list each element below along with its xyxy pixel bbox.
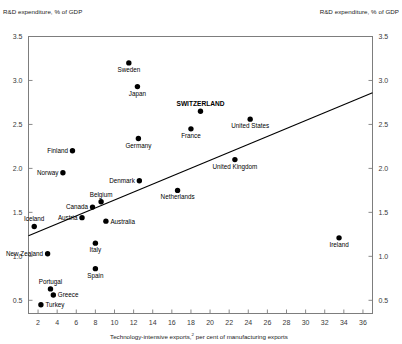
data-point: Greece [51,291,79,298]
point-label: Norway [37,169,59,177]
point-marker [90,204,95,209]
x-tick-label: 34 [340,319,348,326]
x-tick-label: 24 [244,319,252,326]
point-marker [93,240,98,245]
y-tick-label-right: 1.5 [379,209,389,216]
data-point: Netherlands [161,188,195,201]
regression-line [29,93,373,236]
point-marker [98,199,103,204]
point-marker [126,60,131,65]
data-point: Finland [47,147,75,154]
y-tick-label-right: 0.5 [379,297,389,304]
point-label: Portugal [39,278,62,286]
x-axis-title-text-cont: per cent of manufacturing exports [194,333,288,340]
point-label: Australia [110,218,135,225]
data-point: Iceland [24,215,45,229]
x-tick-label: 30 [302,319,310,326]
y-tick-label-left: 2.0 [13,165,23,172]
y-tick-label-right: 3.0 [379,77,389,84]
point-label: Turkey [45,301,65,309]
data-point: Denmark [109,177,142,184]
data-point: Austria [58,214,85,221]
y-tick-label-left: 1.5 [13,209,23,216]
scatter-plot: 0.50.51.01.01.51.52.02.02.52.53.03.03.53… [0,0,402,344]
point-label: Denmark [109,177,135,184]
data-point: Sweden [117,60,140,73]
x-tick-label: 4 [55,319,59,326]
x-tick-label: 20 [206,319,214,326]
data-point: Australia [103,218,135,225]
point-label: Greece [58,291,79,298]
data-point: Japan [129,84,147,98]
x-tick-label: 6 [74,319,78,326]
x-tick-label: 2 [36,319,40,326]
data-point: Norway [37,169,66,177]
point-marker [70,148,75,153]
point-marker [51,292,56,297]
point-marker [232,157,237,162]
point-label: Spain [87,272,104,280]
axis-ticks [29,80,373,313]
point-marker [188,126,193,131]
data-point: Portugal [39,278,62,292]
trend-line [29,93,373,236]
x-tick-label: 10 [111,319,119,326]
x-tick-label: 14 [149,319,157,326]
point-label: SWITZERLAND [177,100,225,107]
point-marker [135,84,140,89]
point-marker [79,215,84,220]
x-tick-label: 32 [321,319,329,326]
point-marker [93,266,98,271]
point-marker [247,116,252,121]
point-label: Japan [129,90,147,98]
point-marker [48,286,53,291]
data-point: New Zealand [6,250,50,257]
data-point: SWITZERLAND [177,100,225,114]
point-marker [32,224,37,229]
point-label: United States [231,122,269,129]
y-tick-label-left: 2.5 [13,121,23,128]
x-tick-label: 36 [359,319,367,326]
point-label: Iceland [24,215,45,222]
plot-frame [29,37,373,314]
y-tick-label-right: 1.0 [379,253,389,260]
point-marker [45,251,50,256]
point-label: Belgium [90,191,113,199]
point-marker [38,302,43,307]
x-tick-label: 8 [93,319,97,326]
x-axis-title: Technology-intensive exports,2 per cent … [0,332,398,340]
point-label: Ireland [329,241,349,248]
data-point: Ireland [329,235,349,248]
y-tick-label-left: 3.5 [13,33,23,40]
axis-tick-labels: 0.50.51.01.01.51.52.02.02.52.53.03.03.53… [13,33,389,325]
point-marker [103,218,108,223]
data-points: SwedenJapanSWITZERLANDUnited StatesFranc… [6,60,349,309]
x-axis-title-text: Technology-intensive exports, [110,333,192,340]
data-point: United Kingdom [212,157,257,171]
point-label: Germany [125,142,152,150]
data-point: United States [231,116,269,129]
y-tick-label-right: 2.5 [379,121,389,128]
point-label: Netherlands [161,193,195,200]
chart-figure: R&D expenditure, % of GDP R&D expenditur… [0,0,402,344]
point-label: United Kingdom [212,163,257,171]
point-marker [175,188,180,193]
point-label: Sweden [117,66,140,73]
point-label: Canada [66,203,89,210]
x-tick-label: 26 [263,319,271,326]
data-point: Germany [125,136,152,150]
data-point: Turkey [38,301,65,309]
point-label: New Zealand [6,250,44,257]
x-tick-label: 22 [225,319,233,326]
point-label: Italy [90,246,102,254]
data-point: Spain [87,266,104,280]
y-tick-label-left: 3.0 [13,77,23,84]
y-tick-label-right: 3.5 [379,33,389,40]
x-tick-label: 16 [168,319,176,326]
point-marker [198,109,203,114]
x-tick-label: 28 [283,319,291,326]
plot-border [29,37,373,314]
y-tick-label-right: 2.0 [379,165,389,172]
point-label: France [181,132,201,139]
point-marker [137,178,142,183]
